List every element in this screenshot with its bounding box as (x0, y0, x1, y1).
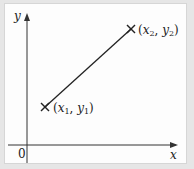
origin-label: 0 (18, 147, 26, 161)
line-segment (45, 29, 131, 107)
y-axis-label: y (13, 9, 21, 23)
point-2-cross-icon (127, 25, 135, 33)
coordinate-diagram: y x 0 (x1, y1) (x2, y2) (0, 0, 194, 169)
y-axis-arrow-icon (24, 13, 30, 21)
point-1-label: (x1, y1) (53, 101, 94, 116)
point-1-cross-icon (41, 103, 49, 111)
point-2-label: (x2, y2) (138, 23, 179, 38)
x-axis-label: x (170, 148, 177, 162)
